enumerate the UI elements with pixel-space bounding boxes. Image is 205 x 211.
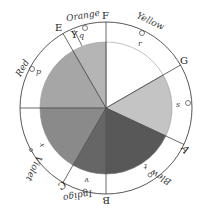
label-blue: Blew [148,167,174,188]
point-e: E [55,22,62,33]
label-violet: Violet [24,154,44,183]
point-g: G [180,55,188,66]
point-c: C [56,179,68,193]
letter-t: t [143,162,147,171]
letter-v: v [84,176,89,185]
color-circle-diagram: F G A B C E Y Orange Yellow Red Violet I… [0,0,205,211]
letter-q: q [79,31,84,40]
letter-x: x [38,143,47,148]
point-f: F [102,10,109,21]
letter-p: p [36,67,41,76]
point-y: Y [70,29,78,40]
label-orange: Orange [65,8,100,24]
label-indigo: Indigo [62,188,94,203]
label-red: Red [13,58,31,80]
point-b: B [103,195,110,206]
point-a: A [178,143,192,156]
letter-s: s [176,100,180,109]
letter-r: r [138,39,143,48]
